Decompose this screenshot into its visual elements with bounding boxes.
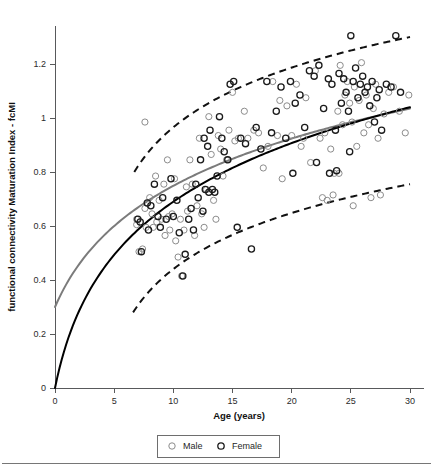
plot-background (0, 0, 433, 473)
x-tick-label: 25 (346, 396, 356, 406)
scatter-plot-svg: 00.20.40.60.811.2 051015202530 Age (year… (0, 0, 433, 473)
x-tick-label: 5 (112, 396, 117, 406)
legend-label-female: Female (232, 441, 262, 451)
x-tick-label: 15 (227, 396, 237, 406)
legend-label-male: Male (183, 441, 203, 451)
y-axis-title: functional connectivity Maturation Index… (6, 102, 17, 312)
y-tick-label: 1 (41, 113, 46, 123)
x-tick-label: 30 (405, 396, 415, 406)
y-tick-label: 0 (41, 383, 46, 393)
y-tick-label: 0.4 (33, 275, 46, 285)
x-tick-label: 20 (287, 396, 297, 406)
x-tick-label: 10 (168, 396, 178, 406)
y-tick-label: 0.8 (33, 167, 46, 177)
y-tick-label: 0.6 (33, 221, 46, 231)
y-tick-label: 1.2 (33, 59, 46, 69)
x-axis-title: Age (years) (213, 410, 265, 421)
legend: Male Female (157, 435, 279, 457)
x-tick-label: 0 (52, 396, 57, 406)
figure-container: 00.20.40.60.811.2 051015202530 Age (year… (0, 0, 433, 473)
y-tick-label: 0.2 (33, 329, 46, 339)
